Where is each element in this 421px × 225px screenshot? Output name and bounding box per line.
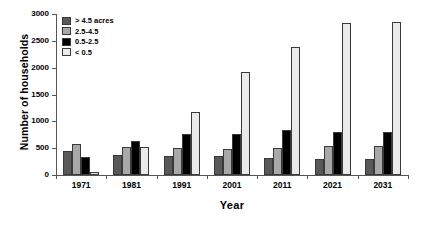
- bar-chart: Number of households 0500100015002000250…: [0, 0, 421, 225]
- legend-swatch-icon: [62, 17, 71, 25]
- bar: [72, 144, 81, 175]
- x-axis-tick-label: 2031: [361, 180, 405, 190]
- x-axis-tick-mark: [408, 175, 409, 179]
- bar: [164, 156, 173, 175]
- bar: [140, 147, 149, 175]
- bar-group: [207, 14, 257, 175]
- bar: [333, 132, 342, 175]
- bar: [365, 159, 374, 175]
- x-axis-tick-label: 2001: [210, 180, 254, 190]
- y-axis-tick-label: 1500: [19, 90, 49, 99]
- bar: [191, 112, 200, 175]
- bar: [315, 159, 324, 175]
- bar-group: [257, 14, 307, 175]
- x-axis-tick-mark: [257, 175, 258, 179]
- x-axis-tick-mark: [157, 175, 158, 179]
- chart-legend: > 4.5 acres2.5-4.50.5-2.5< 0.5: [62, 16, 114, 57]
- y-axis-tick-label: 3000: [19, 9, 49, 18]
- bar: [81, 157, 90, 175]
- x-axis-line: [56, 175, 408, 176]
- bar: [264, 158, 273, 175]
- legend-item-label: 2.5-4.5: [75, 27, 98, 36]
- legend-item: > 4.5 acres: [62, 16, 114, 25]
- x-axis-tick-label: 1981: [109, 180, 153, 190]
- bar: [392, 22, 401, 175]
- bar: [214, 156, 223, 175]
- bar: [273, 148, 282, 175]
- bar: [173, 148, 182, 175]
- bar-group: [307, 14, 357, 175]
- bar: [182, 134, 191, 175]
- x-axis-tick-mark: [207, 175, 208, 179]
- legend-item: 0.5-2.5: [62, 37, 114, 46]
- bar-group: [358, 14, 408, 175]
- x-axis-tick-label: 2021: [311, 180, 355, 190]
- x-axis-title: Year: [56, 199, 408, 211]
- legend-item-label: > 4.5 acres: [75, 16, 114, 25]
- legend-item-label: < 0.5: [75, 48, 92, 57]
- y-axis-tick-label: 0: [19, 170, 49, 179]
- legend-item: 2.5-4.5: [62, 27, 114, 36]
- bar: [232, 134, 241, 175]
- x-axis-tick-mark: [358, 175, 359, 179]
- x-axis-tick-label: 1991: [160, 180, 204, 190]
- bar-group: [106, 14, 156, 175]
- bar: [291, 47, 300, 175]
- y-axis-tick-label: 2000: [19, 63, 49, 72]
- legend-swatch-icon: [62, 48, 71, 56]
- legend-item: < 0.5: [62, 48, 114, 57]
- bar: [241, 72, 250, 175]
- bar: [131, 141, 140, 175]
- bar-group: [157, 14, 207, 175]
- x-axis-tick-mark: [307, 175, 308, 179]
- x-axis-tick-label: 1971: [59, 180, 103, 190]
- bar: [63, 151, 72, 175]
- legend-swatch-icon: [62, 38, 71, 46]
- bar: [223, 149, 232, 175]
- x-axis-tick-mark: [56, 175, 57, 179]
- bar: [383, 132, 392, 175]
- x-axis-tick-mark: [106, 175, 107, 179]
- legend-item-label: 0.5-2.5: [75, 37, 98, 46]
- bar: [342, 23, 351, 175]
- bar: [113, 155, 122, 175]
- bar: [374, 146, 383, 175]
- bar: [90, 172, 99, 175]
- legend-swatch-icon: [62, 27, 71, 35]
- bar: [282, 130, 291, 175]
- bar: [122, 147, 131, 175]
- bar: [324, 146, 333, 175]
- x-axis-tick-label: 2011: [260, 180, 304, 190]
- y-axis-tick-label: 2500: [19, 36, 49, 45]
- y-axis-tick-label: 1000: [19, 116, 49, 125]
- y-axis-tick-label: 500: [19, 143, 49, 152]
